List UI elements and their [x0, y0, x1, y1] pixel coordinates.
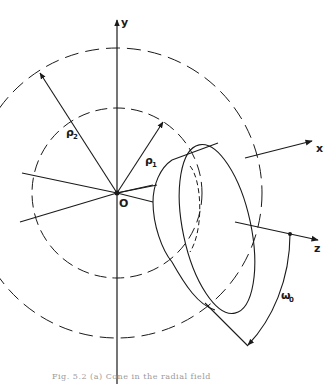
origin-label: O — [119, 197, 128, 210]
y-axis-label: y — [121, 16, 128, 29]
outer-dashed-circle — [0, 48, 262, 338]
rho2-radius-arrow — [40, 73, 117, 193]
figure-caption: Fig. 5.2 (a) Cone in the radial field — [52, 372, 211, 381]
z-axis-label: z — [314, 242, 320, 255]
origin-point — [115, 191, 120, 196]
cone-geometry-diagram: y x z O ρ 2 ρ 1 ω 0 — [0, 0, 334, 384]
rho1-subscript: 1 — [152, 161, 157, 169]
cone — [153, 138, 268, 320]
x-axis-label: x — [316, 142, 323, 155]
rho2-subscript: 2 — [73, 133, 78, 141]
z-axis — [235, 222, 318, 240]
omega0-subscript: 0 — [289, 296, 294, 304]
